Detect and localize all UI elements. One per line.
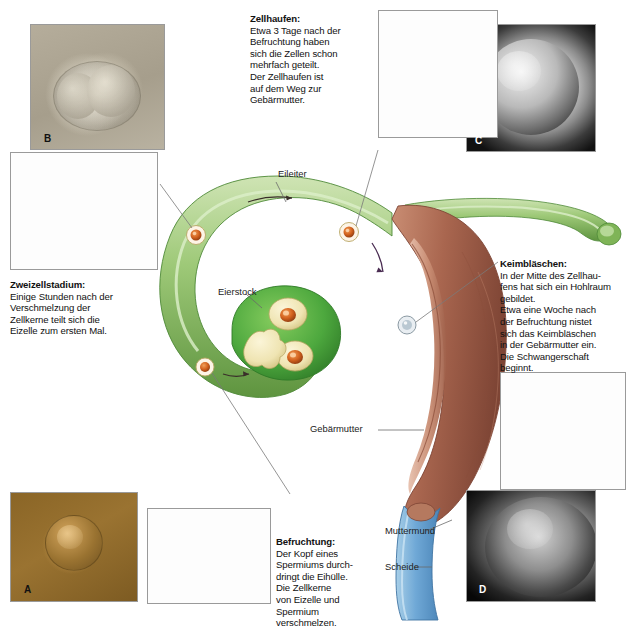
blastocyst-in-uterus	[398, 316, 416, 334]
callout-zweizellstadium: Zweizellstadium: Einige Stunden nach der…	[10, 279, 144, 337]
illustration-frame-zweizellstadium[interactable]	[10, 152, 158, 270]
callout-keimblaeschen-title: Keimbläschen:	[500, 258, 640, 270]
photo-letter-b: B	[44, 133, 51, 144]
ovum-stage-1	[187, 226, 206, 245]
illustration-frame-zellhaufen[interactable]	[378, 10, 498, 138]
callout-zellhaufen-body: Etwa 3 Tage nach der Befruchtung haben s…	[250, 25, 374, 106]
label-eileiter: Eileiter	[278, 168, 307, 179]
callout-zellhaufen: Zellhaufen: Etwa 3 Tage nach der Befruch…	[250, 13, 374, 106]
photo-frame-d[interactable]: D	[466, 490, 596, 602]
callout-zweizellstadium-body: Einige Stunden nach der Verschmelzung de…	[10, 291, 144, 337]
uterus	[392, 205, 506, 527]
label-scheide: Scheide	[385, 561, 419, 572]
illustration-frame-keimblaeschen[interactable]	[500, 372, 626, 490]
ovum-stage-2	[340, 223, 359, 242]
follicle-upper	[269, 298, 307, 330]
label-muttermund: Muttermund	[385, 525, 435, 536]
callout-befruchtung-body: Der Kopf eines Spermiums durch- dringt d…	[276, 548, 394, 629]
ovum-stage-0	[196, 358, 214, 376]
photo-frame-b[interactable]: B	[30, 24, 165, 150]
photo-letter-a: A	[24, 584, 31, 595]
label-gebaermutter: Gebärmutter	[310, 423, 363, 434]
callout-keimblaeschen: Keimbläschen: In der Mitte des Zellhau- …	[500, 258, 640, 374]
photo-frame-a[interactable]: A	[10, 492, 138, 602]
illustration-frame-befruchtung[interactable]	[147, 508, 271, 604]
photo-b-texture	[31, 25, 164, 149]
callout-zellhaufen-title: Zellhaufen:	[250, 13, 374, 25]
label-eierstock: Eierstock	[218, 286, 257, 297]
callout-keimblaeschen-body: In der Mitte des Zellhau- fens hat sich …	[500, 270, 640, 374]
photo-letter-d: D	[479, 584, 486, 595]
ovary	[232, 286, 341, 380]
callout-befruchtung-title: Befruchtung:	[276, 536, 394, 548]
callout-befruchtung: Befruchtung: Der Kopf eines Spermiums du…	[276, 536, 394, 629]
callout-zweizellstadium-title: Zweizellstadium:	[10, 279, 144, 291]
photo-letter-c: C	[475, 135, 482, 146]
